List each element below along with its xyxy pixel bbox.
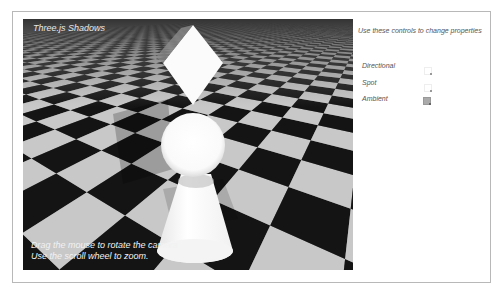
ambient-checkbox[interactable] xyxy=(423,97,431,105)
help-line-rotate: Drag the mouse to rotate the camera xyxy=(31,240,178,251)
directional-label: Directional xyxy=(362,62,395,69)
help-line-zoom: Use the scroll wheel to zoom. xyxy=(31,251,178,262)
scene-title: Three.js Shadows xyxy=(33,23,105,33)
ambient-label: Ambient xyxy=(362,95,388,102)
spot-checkbox[interactable] xyxy=(424,84,432,92)
controls-panel: Use these controls to change properties xyxy=(358,27,488,34)
help-text: Drag the mouse to rotate the camera Use … xyxy=(31,240,178,262)
controls-heading: Use these controls to change properties xyxy=(358,27,488,34)
sphere-mesh xyxy=(161,113,225,177)
directional-checkbox[interactable] xyxy=(424,67,432,75)
spot-label: Spot xyxy=(362,79,376,86)
webgl-canvas[interactable]: Three.js Shadows Drag the mouse to rotat… xyxy=(23,19,353,270)
scene-render xyxy=(23,19,353,270)
